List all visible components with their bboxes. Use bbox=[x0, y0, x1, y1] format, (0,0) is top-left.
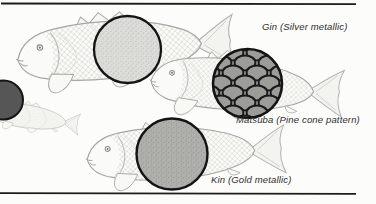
kin-scale-inset-circle bbox=[137, 119, 208, 190]
gin-label: Gin (Silver metallic) bbox=[262, 21, 348, 32]
gin-scale-inset-circle bbox=[94, 16, 161, 83]
kin-label: Kin (Gold metallic) bbox=[211, 174, 291, 185]
matsuba-scale-inset-circle bbox=[213, 49, 282, 118]
top-rule bbox=[1, 4, 356, 5]
matsuba-label: Matsuba (Pine cone pattern) bbox=[236, 114, 360, 125]
illustration-panel: Gin (Silver metallic) Matsuba (Pine cone… bbox=[0, 0, 376, 204]
bottom-rule bbox=[0, 193, 356, 194]
